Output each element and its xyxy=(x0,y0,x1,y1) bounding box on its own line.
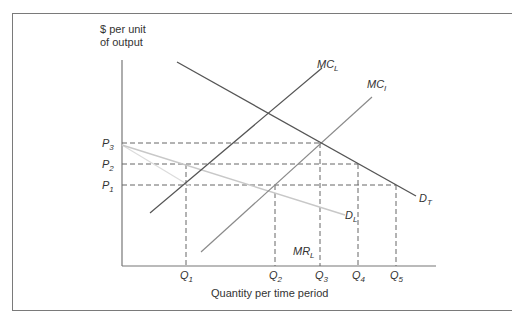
mc-i-curve xyxy=(201,97,372,252)
p1-label: P1 xyxy=(102,179,114,194)
q3-label: Q3 xyxy=(315,269,329,284)
x-axis-label: Quantity per time period xyxy=(211,287,328,299)
mc-l-curve xyxy=(150,68,322,213)
mc-l-label: MCL xyxy=(317,58,339,73)
d-l-label: DL xyxy=(345,209,357,224)
q2-label: Q2 xyxy=(269,269,283,284)
q5-label: Q5 xyxy=(390,269,404,284)
q4-label: Q4 xyxy=(352,269,366,284)
mr-l-label: MRL xyxy=(293,245,315,260)
y-axis-label-line2: of output xyxy=(100,36,143,48)
mc-i-label: MCI xyxy=(367,78,387,93)
d-l-curve xyxy=(122,145,345,215)
q1-label: Q1 xyxy=(180,269,193,284)
y-axis-label-line1: $ per unit xyxy=(100,23,146,35)
p2-label: P2 xyxy=(102,158,114,173)
p3-label: P3 xyxy=(102,137,114,152)
d-t-label: DT xyxy=(419,192,433,207)
mr-l-curve xyxy=(122,145,190,186)
